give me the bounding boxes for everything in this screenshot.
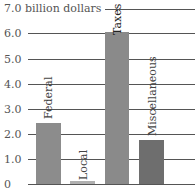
gridline-0	[28, 184, 195, 185]
bar-taxes	[105, 32, 129, 184]
y-tick-4: 4.0	[4, 79, 24, 90]
y-tick-1: 1.0	[4, 154, 24, 165]
y-tick-3: 3.0	[4, 104, 24, 115]
bar-federal	[36, 123, 61, 184]
y-tick-0: 0	[4, 179, 13, 190]
y-tick-5: 5.0	[4, 54, 24, 65]
bar-miscellaneous	[139, 140, 164, 184]
label-federal: Federal	[42, 77, 55, 119]
bar-local	[70, 181, 95, 184]
label-local: Local	[77, 150, 90, 180]
label-taxes: Taxes	[111, 4, 124, 35]
y-axis-title: 7.0 billion dollars	[4, 3, 105, 14]
y-tick-6: 6.0	[4, 28, 24, 39]
label-miscellaneous: Miscellaneous	[146, 56, 159, 136]
y-tick-2: 2.0	[4, 129, 24, 140]
